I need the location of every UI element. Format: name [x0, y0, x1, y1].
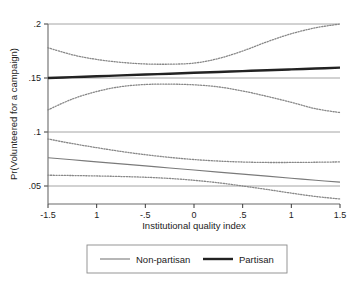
chart-figure: Pr(Volunteered for a campaign) .05.1.15.… [0, 0, 355, 281]
x-axis-tick-label: -1.5 [40, 210, 56, 220]
y-axis-tick-label: .15 [28, 73, 41, 83]
x-axis-tick-label: 1 [94, 210, 99, 220]
y-axis-title: Pr(Volunteered for a campaign) [8, 48, 19, 180]
y-axis-tick-label: .2 [33, 19, 41, 29]
x-axis-title: Institutional quality index [142, 220, 246, 231]
legend: Non-partisan Partisan [87, 245, 287, 273]
y-axis-tick-label: .05 [28, 181, 41, 191]
x-axis-tick-label: .5 [239, 210, 247, 220]
legend-label-non-partisan: Non-partisan [136, 254, 190, 265]
x-axis-tick-label: -.5 [140, 210, 151, 220]
y-axis-tick-label: .1 [33, 127, 41, 137]
x-axis-tick-label: 1 [289, 210, 294, 220]
legend-label-partisan: Partisan [239, 254, 274, 265]
chart-svg: Pr(Volunteered for a campaign) .05.1.15.… [0, 0, 355, 281]
x-axis-tick-label: 1.5 [334, 210, 347, 220]
x-axis-tick-label: 0 [191, 210, 196, 220]
